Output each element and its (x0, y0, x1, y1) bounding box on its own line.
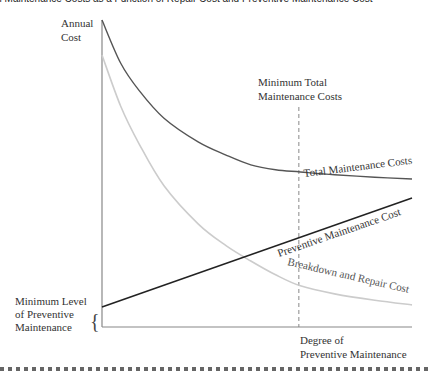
min-total-label-line2: Maintenance Costs (258, 90, 342, 102)
y-axis-label-line1: Annual (61, 17, 93, 29)
breakdown-curve-label: Breakdown and Repair Cost (287, 255, 411, 295)
preventive-curve-label: Preventive Maintenance Cost (276, 205, 402, 259)
bottom-dotted-rule (0, 367, 432, 371)
brace-icon: { (90, 310, 100, 332)
preventive-maintenance-cost-line (102, 198, 412, 307)
breakdown-repair-cost-curve (102, 55, 412, 305)
x-axis-label-line1: Degree of (300, 334, 344, 346)
min-level-label-line2: of Preventive (15, 308, 74, 320)
total-curve-label: Total Maintenance Costs (303, 154, 413, 179)
x-axis-label-line2: Preventive Maintenance (300, 348, 407, 360)
min-total-label-line1: Minimum Total (258, 76, 327, 88)
min-level-label-line3: Maintenance (15, 321, 72, 333)
chart: Annual Cost Minimum Total Maintenance Co… (0, 0, 432, 375)
min-level-label-line1: Minimum Level (15, 295, 87, 307)
total-maintenance-cost-curve (102, 20, 412, 179)
y-axis-label-line2: Cost (61, 31, 81, 43)
